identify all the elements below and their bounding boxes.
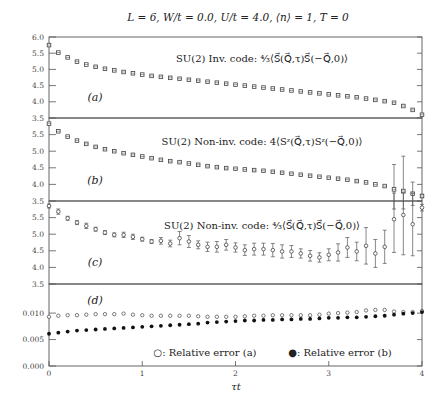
data-point-rel-error-b bbox=[56, 331, 60, 335]
panel-label: (d) bbox=[87, 294, 103, 307]
data-point bbox=[411, 222, 415, 226]
data-point-rel-error-a bbox=[262, 314, 265, 317]
data-point-rel-error-b bbox=[159, 324, 163, 328]
data-point-rel-error-b bbox=[373, 314, 377, 318]
data-point-rel-error-a bbox=[66, 314, 69, 317]
data-point bbox=[159, 239, 163, 243]
data-point-rel-error-a bbox=[355, 310, 358, 313]
data-point bbox=[290, 250, 294, 254]
x-tick-label: 2 bbox=[233, 369, 238, 378]
data-point-rel-error-b bbox=[140, 325, 144, 329]
data-point bbox=[196, 243, 200, 247]
data-point bbox=[75, 221, 79, 225]
data-point bbox=[224, 243, 228, 247]
data-point-rel-error-b bbox=[215, 320, 219, 324]
figure: L = 6, W/t = 0.0, U/t = 4.0, ⟨n⟩ = 1, T … bbox=[0, 0, 443, 411]
data-point bbox=[94, 227, 98, 231]
panel-label: (b) bbox=[87, 174, 103, 187]
data-point-rel-error-b bbox=[84, 328, 88, 332]
y-tick-label: 3.5 bbox=[32, 114, 44, 123]
panel-b: 3.54.04.55.05.5SU(2) Non-inv. code: 4⟨Sᶻ… bbox=[32, 118, 424, 209]
data-point-rel-error-a bbox=[169, 314, 172, 317]
panel-a: 3.54.04.55.05.56.0SU(2) Inv. code: ⁴⁄₃⟨S… bbox=[32, 33, 424, 123]
data-point-rel-error-a bbox=[178, 314, 181, 317]
y-tick-label: 4.5 bbox=[32, 163, 44, 172]
data-point bbox=[392, 217, 396, 221]
data-point-rel-error-b bbox=[66, 330, 70, 334]
data-point-rel-error-a bbox=[252, 314, 255, 317]
data-point bbox=[327, 253, 331, 257]
y-tick-label: 4.5 bbox=[32, 246, 44, 255]
data-point-rel-error-a bbox=[197, 315, 200, 318]
x-tick-label: 3 bbox=[326, 369, 331, 378]
panel-frame bbox=[49, 118, 422, 201]
y-tick-label: 5.5 bbox=[32, 49, 44, 58]
data-point-rel-error-a bbox=[150, 314, 153, 317]
data-point-rel-error-a bbox=[374, 308, 377, 311]
data-point-rel-error-b bbox=[271, 318, 275, 322]
data-point bbox=[346, 246, 350, 250]
data-point-rel-error-a bbox=[57, 314, 60, 317]
y-tick-label: 5.5 bbox=[32, 130, 44, 139]
data-point-rel-error-a bbox=[47, 315, 50, 318]
data-point-rel-error-b bbox=[150, 324, 154, 328]
panel-annotation: SU(2) Inv. code: ⁴⁄₃⟨S⃗(Q⃗,τ)S⃗(−Q⃗,0)⟩ bbox=[176, 52, 348, 64]
data-point bbox=[140, 237, 144, 241]
data-point bbox=[215, 245, 219, 249]
chart-title: L = 6, W/t = 0.0, U/t = 4.0, ⟨n⟩ = 1, T … bbox=[126, 11, 349, 23]
data-point-rel-error-b bbox=[178, 323, 182, 327]
data-point bbox=[262, 247, 266, 251]
data-point-rel-error-b bbox=[383, 314, 387, 318]
data-point-rel-error-b bbox=[224, 320, 228, 324]
data-point-rel-error-b bbox=[187, 322, 191, 326]
y-tick-label: 5.0 bbox=[32, 65, 44, 74]
data-point bbox=[178, 236, 182, 240]
y-tick-label: 4.0 bbox=[32, 180, 44, 189]
x-tick-label: 1 bbox=[140, 369, 145, 378]
data-point-rel-error-b bbox=[243, 319, 247, 323]
data-point-rel-error-b bbox=[234, 319, 238, 323]
data-point bbox=[364, 244, 368, 248]
data-point-rel-error-b bbox=[112, 327, 116, 331]
data-point-rel-error-a bbox=[141, 314, 144, 317]
data-point bbox=[150, 240, 154, 244]
data-point-rel-error-a bbox=[280, 314, 283, 317]
data-point-rel-error-a bbox=[224, 315, 227, 318]
panel-annotation: SU(2) Non-inv. code: ⁴⁄₃⟨S⃗(Q⃗,τ)S⃗(−Q⃗,… bbox=[164, 219, 360, 231]
data-point-rel-error-a bbox=[103, 312, 106, 315]
x-tick-label: 0 bbox=[47, 369, 52, 378]
data-point bbox=[122, 233, 126, 237]
data-point bbox=[355, 250, 359, 254]
data-point bbox=[103, 231, 107, 235]
data-point bbox=[271, 248, 275, 252]
data-point-rel-error-b bbox=[346, 315, 350, 319]
data-point-rel-error-b bbox=[420, 310, 424, 314]
panel-label: (a) bbox=[87, 91, 102, 104]
data-point bbox=[308, 254, 312, 258]
y-tick-label: 5.5 bbox=[32, 213, 44, 222]
y-tick-label: 3.5 bbox=[32, 280, 44, 289]
data-point-rel-error-b bbox=[94, 328, 98, 332]
data-point-rel-error-a bbox=[327, 312, 330, 315]
data-point-rel-error-a bbox=[113, 312, 116, 315]
data-point-rel-error-a bbox=[75, 314, 78, 317]
data-point-rel-error-a bbox=[215, 315, 218, 318]
y-tick-label: 0.010 bbox=[23, 309, 45, 318]
data-point-rel-error-a bbox=[271, 314, 274, 317]
y-tick-label: 0.005 bbox=[23, 335, 45, 344]
data-point-rel-error-a bbox=[187, 314, 190, 317]
data-point-rel-error-a bbox=[392, 310, 395, 313]
data-point-rel-error-a bbox=[336, 311, 339, 314]
data-point bbox=[243, 248, 247, 252]
data-point-rel-error-b bbox=[168, 323, 172, 327]
data-point-rel-error-a bbox=[85, 313, 88, 316]
data-point-rel-error-b bbox=[103, 327, 107, 331]
data-point-rel-error-b bbox=[327, 316, 331, 320]
y-tick-label: 4.0 bbox=[32, 263, 44, 272]
data-point-rel-error-b bbox=[75, 329, 79, 333]
data-point-rel-error-b bbox=[131, 325, 135, 329]
data-point-rel-error-a bbox=[318, 313, 321, 316]
y-tick-label: 0.000 bbox=[23, 362, 45, 371]
data-point-rel-error-a bbox=[131, 313, 134, 316]
panel-label: (c) bbox=[88, 256, 103, 269]
